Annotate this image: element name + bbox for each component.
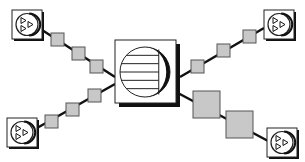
link-bottom-right [176,91,270,142]
relay-square[interactable] [226,111,253,138]
relay-square[interactable] [51,33,64,46]
striped-circle-icon [120,47,170,97]
network-diagram [0,0,305,162]
diagram-svg [0,0,305,162]
relay-square[interactable] [191,60,204,73]
relay-square[interactable] [193,91,220,118]
relay-square[interactable] [66,103,79,116]
triangles-in-circle-icon [271,132,295,154]
link-top-right [180,28,264,77]
link-top-left [42,30,115,77]
relay-square[interactable] [217,44,230,57]
relay-square[interactable] [90,60,103,73]
relay-square[interactable] [243,30,256,43]
node-top-left[interactable] [12,10,44,41]
relay-square[interactable] [45,115,58,128]
node-bottom-right[interactable] [267,128,299,159]
node-bottom-left[interactable] [7,118,39,149]
triangles-in-circle-icon [268,14,292,36]
connector-line [176,92,270,142]
relay-square[interactable] [88,89,101,102]
triangles-in-circle-icon [16,14,40,36]
node-top-right[interactable] [264,10,296,41]
triangles-in-circle-icon [11,122,35,144]
link-bottom-left [37,84,115,128]
relay-square[interactable] [72,47,85,60]
central-server[interactable] [115,40,180,107]
